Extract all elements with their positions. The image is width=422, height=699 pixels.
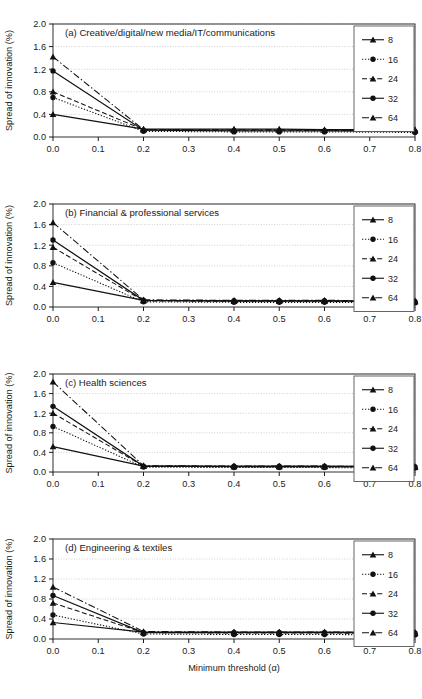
legend-label-8: 8	[388, 550, 393, 560]
x-tick-label: 0.4	[228, 479, 241, 489]
legend-marker-32	[370, 96, 375, 101]
y-tick-label: 1.2	[33, 65, 46, 75]
data-point-32	[50, 68, 55, 73]
x-tick-label: 0.8	[409, 144, 422, 154]
x-tick-label: 0.2	[137, 314, 150, 324]
data-point-16	[50, 424, 55, 429]
y-tick-label: 2.0	[33, 199, 46, 209]
data-point-16	[50, 612, 55, 617]
legend-label-8: 8	[388, 215, 393, 225]
data-point-32	[50, 237, 55, 242]
x-tick-label: 0.5	[273, 479, 286, 489]
data-point-24	[50, 600, 57, 606]
x-tick-label: 0.3	[182, 314, 195, 324]
legend-marker-32	[370, 611, 375, 616]
x-tick-label: 0.1	[92, 144, 105, 154]
y-tick-label: 0.8	[33, 261, 46, 271]
x-tick-label: 0.6	[318, 479, 331, 489]
y-tick-label: 0.4	[33, 282, 46, 292]
legend-label-64: 64	[388, 113, 398, 123]
legend-label-16: 16	[388, 405, 398, 415]
legend-label-64: 64	[388, 628, 398, 638]
y-tick-label: 1.6	[33, 220, 46, 230]
legend-label-32: 32	[388, 274, 398, 284]
y-tick-label: 0.8	[33, 428, 46, 438]
data-point-64	[50, 379, 57, 385]
data-point-16	[50, 260, 55, 265]
x-tick-label: 0.1	[92, 479, 105, 489]
x-tick-label: 0.7	[363, 314, 376, 324]
legend-label-16: 16	[388, 570, 398, 580]
legend-marker-32	[370, 276, 375, 281]
y-axis-title: Spread of innovation (%)	[4, 538, 14, 639]
legend-marker-16	[370, 57, 375, 62]
legend-label-32: 32	[388, 444, 398, 454]
y-tick-label: 1.2	[33, 409, 46, 419]
x-tick-label: 0.0	[47, 144, 60, 154]
legend-label-24: 24	[388, 589, 398, 599]
x-tick-label: 0.0	[47, 646, 60, 656]
x-tick-label: 0.4	[228, 144, 241, 154]
y-axis-title: Spread of innovation (%)	[4, 372, 14, 473]
data-point-8	[50, 443, 57, 449]
chart-panel-1: 0.00.40.81.21.62.00.00.10.20.30.40.50.60…	[0, 0, 422, 180]
x-tick-label: 0.3	[182, 144, 195, 154]
x-tick-label: 0.0	[47, 314, 60, 324]
y-tick-label: 1.6	[33, 389, 46, 399]
y-tick-label: 0.4	[33, 448, 46, 458]
data-point-64	[50, 219, 57, 225]
legend-label-8: 8	[388, 385, 393, 395]
x-tick-label: 0.3	[182, 479, 195, 489]
x-tick-label: 0.5	[273, 646, 286, 656]
x-tick-label: 0.5	[273, 314, 286, 324]
y-tick-label: 0.0	[33, 467, 46, 477]
x-tick-label: 0.6	[318, 646, 331, 656]
legend-label-64: 64	[388, 463, 398, 473]
y-tick-label: 0.8	[33, 87, 46, 97]
x-tick-label: 0.5	[273, 144, 286, 154]
y-tick-label: 2.0	[33, 19, 46, 29]
x-tick-label: 0.0	[47, 479, 60, 489]
data-point-64	[50, 584, 57, 590]
legend-label-8: 8	[388, 35, 393, 45]
panel-title: (c) Health sciences	[65, 377, 147, 388]
x-tick-label: 0.8	[409, 646, 422, 656]
y-tick-label: 2.0	[33, 534, 46, 544]
y-tick-label: 2.0	[33, 369, 46, 379]
figure-panels: 0.00.40.81.21.62.00.00.10.20.30.40.50.60…	[0, 0, 422, 699]
legend-label-24: 24	[388, 254, 398, 264]
legend-label-64: 64	[388, 293, 398, 303]
data-point-32	[50, 404, 55, 409]
legend-label-32: 32	[388, 94, 398, 104]
panel-title: (a) Creative/digital/new media/IT/commun…	[65, 27, 275, 38]
y-axis-title: Spread of innovation (%)	[4, 205, 14, 306]
data-point-64	[50, 53, 57, 59]
panel-title: (b) Financial & professional services	[65, 207, 219, 218]
y-tick-label: 1.6	[33, 554, 46, 564]
y-tick-label: 1.2	[33, 241, 46, 251]
x-tick-label: 0.2	[137, 479, 150, 489]
x-tick-label: 0.4	[228, 646, 241, 656]
legend-label-32: 32	[388, 609, 398, 619]
legend-label-24: 24	[388, 74, 398, 84]
y-tick-label: 1.6	[33, 42, 46, 52]
data-point-32	[50, 593, 55, 598]
legend-marker-16	[370, 237, 375, 242]
x-tick-label: 0.7	[363, 144, 376, 154]
x-tick-label: 0.3	[182, 646, 195, 656]
x-tick-label: 0.6	[318, 144, 331, 154]
x-tick-label: 0.1	[92, 646, 105, 656]
panel-title: (d) Engineering & textiles	[65, 542, 172, 553]
legend-label-16: 16	[388, 235, 398, 245]
data-point-8	[50, 279, 57, 285]
legend-label-24: 24	[388, 424, 398, 434]
y-axis-title: Spread of innovation (%)	[4, 30, 14, 131]
y-tick-label: 0.4	[33, 110, 46, 120]
x-tick-label: 0.7	[363, 646, 376, 656]
x-tick-label: 0.6	[318, 314, 331, 324]
x-tick-label: 0.8	[409, 314, 422, 324]
y-tick-label: 1.2	[33, 574, 46, 584]
chart-panel-2: 0.00.40.81.21.62.00.00.10.20.30.40.50.60…	[0, 180, 422, 350]
legend-marker-16	[370, 572, 375, 577]
x-tick-label: 0.2	[137, 646, 150, 656]
